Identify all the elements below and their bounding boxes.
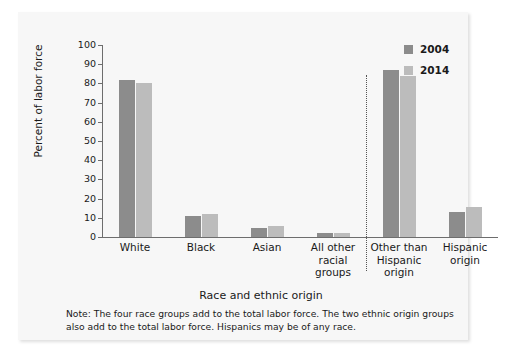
bar-group — [383, 70, 416, 237]
x-axis-category-labels: WhiteBlackAsianAll otherracialgroupsOthe… — [102, 241, 498, 287]
bar-2014 — [466, 207, 482, 237]
bar-2014 — [268, 226, 284, 237]
bar-2014 — [400, 76, 416, 237]
x-category-label: Hispanicorigin — [432, 241, 498, 266]
y-tick-label: 20 — [84, 194, 96, 204]
legend-swatch-icon-2014 — [404, 66, 413, 75]
legend-label-2014: 2014 — [420, 64, 449, 76]
x-category-label: All otherracialgroups — [300, 241, 366, 279]
bar-group — [449, 207, 482, 237]
y-tick-label: 100 — [78, 40, 96, 50]
bar-2004 — [251, 228, 267, 237]
bar-group — [251, 226, 284, 237]
legend-item-2004: 2004 — [404, 43, 449, 55]
legend-label-2004: 2004 — [420, 43, 449, 55]
y-tick-label: 0 — [90, 232, 96, 242]
x-category-label-line: All other — [300, 241, 366, 254]
legend-swatch-icon-2004 — [404, 45, 413, 54]
chart-note: Note: The four race groups add to the to… — [66, 308, 462, 333]
x-category-label-line: Asian — [234, 241, 300, 254]
x-category-label-line: groups — [300, 266, 366, 279]
y-axis-tick-labels: 1009080706050403020100 — [64, 45, 96, 238]
y-tick-label: 60 — [84, 117, 96, 127]
y-tick-label: 50 — [84, 136, 96, 146]
y-tick-label: 40 — [84, 155, 96, 165]
y-tick-label: 30 — [84, 174, 96, 184]
x-category-label: Other thanHispanicorigin — [366, 241, 432, 279]
y-tick-label: 70 — [84, 98, 96, 108]
x-category-label-line: White — [102, 241, 168, 254]
y-axis-title: Percent of labor force — [32, 21, 44, 181]
y-tick-label: 80 — [84, 78, 96, 88]
x-category-label-line: origin — [432, 254, 498, 267]
figure-root: Percent of labor force 10090807060504030… — [0, 0, 505, 353]
x-category-label-line: Other than — [366, 241, 432, 254]
bar-2004 — [317, 233, 333, 237]
bar-group — [317, 233, 350, 237]
x-category-label-line: Hispanic — [366, 254, 432, 267]
x-category-label: Asian — [234, 241, 300, 254]
x-category-label: Black — [168, 241, 234, 254]
y-tick-label: 90 — [84, 59, 96, 69]
bar-2004 — [119, 80, 135, 237]
bar-2014 — [202, 214, 218, 237]
legend: 2004 2014 — [404, 43, 449, 85]
x-axis-title: Race and ethnic origin — [36, 289, 486, 302]
x-category-label-line: Hispanic — [432, 241, 498, 254]
bar-2004 — [383, 70, 399, 237]
x-axis-line — [102, 237, 498, 238]
legend-item-2014: 2014 — [404, 64, 449, 76]
x-category-label-line: origin — [366, 266, 432, 279]
x-category-label-line: Black — [168, 241, 234, 254]
bar-2014 — [334, 233, 350, 237]
bar-group — [119, 80, 152, 237]
bar-2004 — [185, 216, 201, 237]
bar-2004 — [449, 212, 465, 237]
figure-panel: Percent of labor force 10090807060504030… — [18, 12, 468, 340]
bar-group — [185, 214, 218, 237]
x-category-label-line: racial — [300, 254, 366, 267]
y-tick-label: 10 — [84, 213, 96, 223]
bar-2014 — [136, 83, 152, 237]
x-category-label: White — [102, 241, 168, 254]
